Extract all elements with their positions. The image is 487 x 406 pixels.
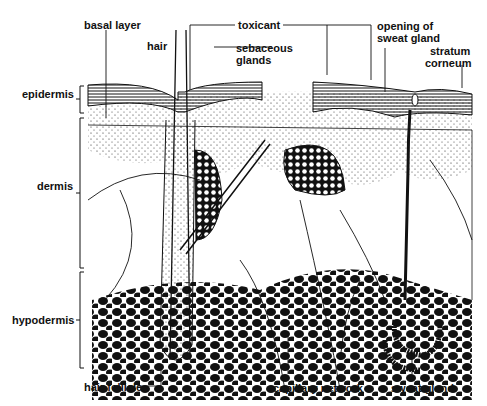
label-dermis: dermis — [37, 180, 73, 192]
label-opening-sweat-gland-line2: sweat gland — [377, 32, 440, 44]
label-basal-layer: basal layer — [84, 19, 141, 31]
hair-follicle-shape — [160, 120, 195, 360]
label-sebaceous-line2: glands — [236, 54, 271, 66]
label-toxicant: toxicant — [238, 19, 280, 31]
label-epidermis: epidermis — [22, 88, 74, 100]
label-stratum-line2: corneum — [425, 57, 471, 69]
label-sebaceous-line1: sebaceous — [236, 42, 293, 54]
label-sweat-gland: sweat gland — [391, 382, 454, 394]
label-hair-follicle: hair follicle — [84, 381, 142, 393]
layer-brackets — [76, 86, 84, 368]
sweat-pore — [412, 94, 418, 106]
label-hair: hair — [147, 40, 167, 52]
label-capillary-network: capillary network — [273, 382, 363, 394]
skin-diagram: basal layer toxicant opening of sweat gl… — [0, 0, 487, 406]
label-hypodermis: hypodermis — [12, 314, 74, 326]
label-stratum-line1: stratum — [430, 45, 470, 57]
label-opening-sweat-gland-line1: opening of — [377, 20, 433, 32]
hypodermis-fat — [92, 269, 472, 400]
